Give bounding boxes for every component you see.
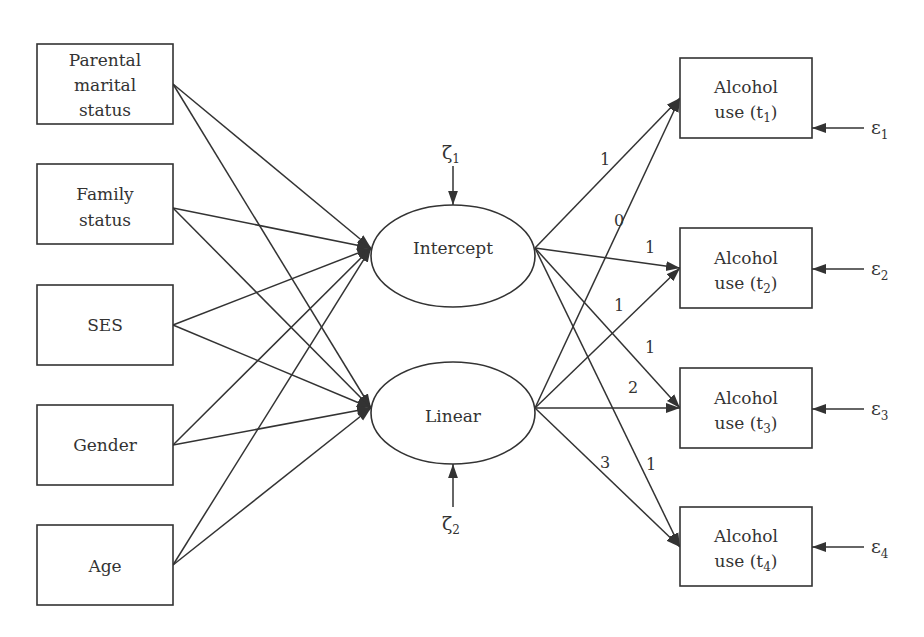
svg-text:ζ1: ζ1	[442, 141, 460, 166]
svg-text:Intercept: Intercept	[413, 238, 493, 258]
path-linear-to-t1	[535, 98, 680, 408]
error-epsilon-1: ε1	[812, 116, 888, 142]
svg-text:status: status	[79, 210, 131, 230]
svg-text:status: status	[79, 100, 131, 120]
path-linear-to-t4	[535, 408, 680, 547]
svg-text:Parental: Parental	[69, 50, 141, 70]
disturbance-zeta-2: ζ2	[442, 464, 460, 537]
svg-text:ζ2: ζ2	[442, 512, 460, 537]
svg-text:SES: SES	[87, 315, 123, 335]
factor-intercept: Intercept	[371, 205, 535, 307]
svg-text:Alcohol: Alcohol	[713, 526, 778, 546]
svg-text:ε4: ε4	[871, 535, 889, 561]
predictor-parental-marital-status: Parental marital status	[37, 44, 173, 124]
path-age-to-intercept	[173, 248, 371, 565]
outcome-alcohol-use-t4: Alcohol use (t4)	[680, 507, 812, 586]
path-intercept-to-t4	[535, 248, 680, 547]
svg-text:Family: Family	[76, 184, 134, 204]
error-epsilon-4: ε4	[812, 535, 889, 561]
loading-intercept-t4: 1	[646, 455, 656, 474]
error-epsilon-2: ε2	[812, 257, 888, 283]
svg-text:ε3: ε3	[871, 397, 888, 423]
loading-linear-t3: 2	[628, 378, 638, 397]
svg-text:Alcohol: Alcohol	[713, 248, 778, 268]
svg-text:Alcohol: Alcohol	[713, 388, 778, 408]
svg-text:Age: Age	[87, 556, 121, 576]
loading-linear-t2: 1	[614, 296, 624, 315]
path-gender-to-intercept	[173, 248, 371, 445]
svg-text:Gender: Gender	[73, 435, 138, 455]
loading-intercept-t2: 1	[645, 238, 655, 257]
factor-linear: Linear	[371, 362, 535, 464]
path-intercept-to-t2	[535, 248, 680, 268]
predictor-age: Age	[37, 525, 173, 605]
predictor-paths	[173, 84, 371, 565]
predictor-family-status: Family status	[37, 164, 173, 244]
svg-text:marital: marital	[74, 75, 136, 95]
outcome-alcohol-use-t1: Alcohol use (t1)	[680, 58, 812, 138]
loading-intercept-t3: 1	[645, 338, 655, 357]
path-family-to-linear	[173, 208, 371, 408]
path-diagram: 1 1 1 1 0 1 2 3 Parental marital status …	[0, 0, 924, 637]
path-ses-to-intercept	[173, 248, 371, 325]
svg-text:ε1: ε1	[871, 116, 888, 142]
error-epsilon-3: ε3	[812, 397, 888, 423]
path-intercept-to-t1	[535, 98, 680, 248]
loading-linear-t4: 3	[600, 453, 610, 472]
svg-text:ε2: ε2	[871, 257, 888, 283]
path-age-to-linear	[173, 408, 371, 565]
svg-text:Linear: Linear	[425, 406, 482, 426]
path-parental-to-linear	[173, 84, 371, 408]
path-gender-to-linear	[173, 408, 371, 445]
path-linear-to-t2	[535, 268, 680, 408]
outcome-alcohol-use-t2: Alcohol use (t2)	[680, 228, 812, 308]
outcome-alcohol-use-t3: Alcohol use (t3)	[680, 368, 812, 448]
predictor-ses: SES	[37, 285, 173, 365]
loading-linear-t1: 0	[614, 211, 624, 230]
path-intercept-to-t3	[535, 248, 680, 408]
svg-text:Alcohol: Alcohol	[713, 77, 778, 97]
disturbance-zeta-1: ζ1	[442, 141, 460, 205]
loading-intercept-t1: 1	[600, 150, 610, 169]
path-parental-to-intercept	[173, 84, 371, 248]
predictor-gender: Gender	[37, 405, 173, 485]
loading-labels: 1 1 1 1 0 1 2 3	[600, 150, 656, 474]
path-ses-to-linear	[173, 325, 371, 408]
path-family-to-intercept	[173, 208, 371, 248]
